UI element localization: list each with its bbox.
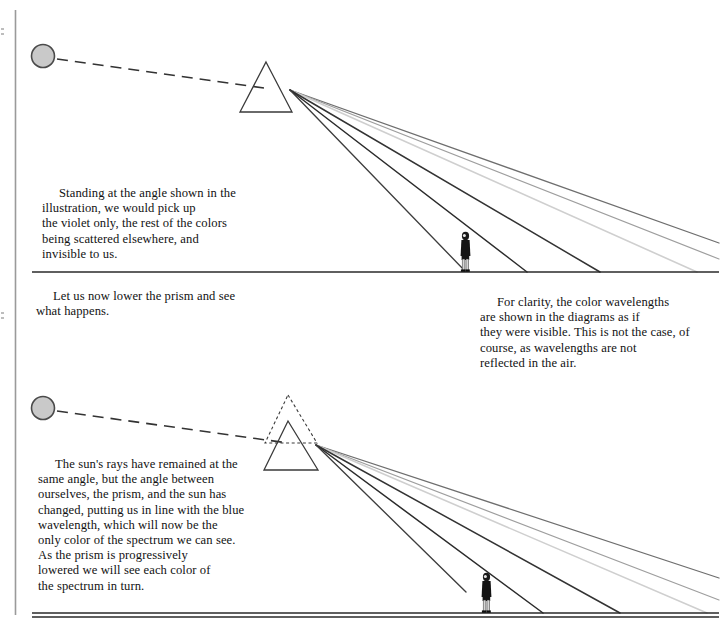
page-canvas: Standing at the angle shown in the illus…	[0, 0, 720, 623]
spectrum-fan-top	[290, 90, 719, 272]
prism-top	[240, 62, 292, 112]
ray-violet	[316, 445, 466, 592]
incident-ray-top	[57, 59, 264, 88]
caption-violet-only-text: Standing at the angle shown in the illus…	[42, 186, 236, 261]
sun-icon-top	[32, 45, 55, 68]
observer-figure-bottom	[482, 573, 492, 613]
ray-red	[316, 445, 719, 578]
incident-ray-bottom	[57, 411, 288, 443]
ray-green	[316, 445, 707, 613]
ray-indigo	[290, 90, 527, 272]
spectrum-fan-bottom	[316, 445, 719, 613]
caption-for-clarity: For clarity, the color wavelengths are s…	[480, 295, 710, 371]
ray-green	[290, 90, 697, 272]
scan-artifacts	[1, 28, 4, 319]
ray-yellow	[316, 445, 719, 600]
caption-lower-prism: Let us now lower the prism and see what …	[36, 289, 276, 319]
ray-violet	[290, 90, 465, 271]
caption-violet-only: Standing at the angle shown in the illus…	[42, 186, 272, 262]
sun-icon-bottom	[32, 397, 55, 420]
ray-cyan	[316, 445, 620, 613]
caption-lower-prism-text: Let us now lower the prism and see what …	[36, 289, 235, 318]
caption-blue-wavelength: The sun's rays have remained at the same…	[38, 457, 274, 594]
ray-yellow	[290, 90, 719, 259]
caption-blue-wavelength-text: The sun's rays have remained at the same…	[38, 457, 244, 593]
ray-red	[290, 90, 719, 243]
ray-blue	[290, 90, 600, 272]
observer-figure-top	[461, 232, 471, 272]
ray-blue	[316, 445, 543, 613]
prism-bottom-original-dashed	[265, 395, 317, 443]
caption-for-clarity-text: For clarity, the color wavelengths are s…	[480, 295, 690, 370]
